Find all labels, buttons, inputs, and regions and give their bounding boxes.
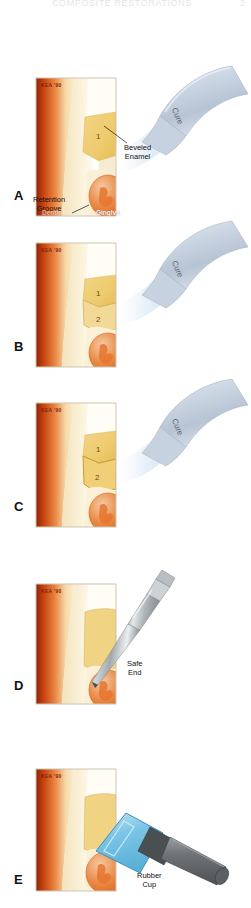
panel-letter-e: E — [14, 872, 23, 887]
increment-number-2: 2 — [95, 473, 99, 482]
panel-e-graphic — [0, 755, 251, 905]
panel-letter-b: B — [14, 339, 23, 354]
panel-b-graphic — [0, 225, 251, 375]
running-head-title: COMPOSITE RESTORATIONS — [52, 0, 192, 8]
panel-letter-c: C — [14, 499, 23, 514]
increment-number-1: 1 — [96, 132, 100, 141]
increment-number-2: 2 — [96, 315, 100, 324]
tooth-section-d — [36, 584, 127, 710]
panel-b: KEA '90 1 2 Cure B — [0, 225, 251, 375]
artist-signature: KEA '90 — [41, 588, 62, 593]
panel-d-graphic — [0, 570, 251, 710]
increment-number-1: 1 — [96, 289, 100, 298]
artist-signature: KEA '90 — [41, 773, 62, 778]
page-header: COMPOSITE RESTORATIONS 2 — [0, 0, 251, 12]
tooth-section-c — [36, 403, 127, 533]
artist-signature: KEA '90 — [41, 247, 62, 252]
panel-c: KEA '90 1 2 Cure C — [0, 385, 251, 535]
panel-c-graphic — [0, 385, 251, 535]
page-number: 2 — [240, 0, 245, 8]
label-safe-end: Safe End — [127, 660, 142, 677]
panel-d: KEA '90 Safe End D — [0, 570, 251, 710]
panel-e: KEA '90 Rubber Cup E — [0, 755, 251, 905]
label-rubber-cup: Rubber Cup — [137, 872, 162, 889]
label-beveled-enamel: Beveled Enamel — [124, 144, 151, 161]
artist-signature: KEA '90 — [41, 82, 62, 87]
label-dentin: Dentin — [42, 209, 62, 218]
panel-a: KEA '90 Beveled Enamel Retention Groove … — [0, 60, 251, 218]
panel-letter-a: A — [14, 188, 23, 203]
panel-letter-d: D — [14, 678, 23, 693]
label-gingiva: Gingiva — [96, 209, 120, 218]
artist-signature: KEA '90 — [41, 407, 62, 412]
increment-number-1: 1 — [96, 445, 100, 454]
